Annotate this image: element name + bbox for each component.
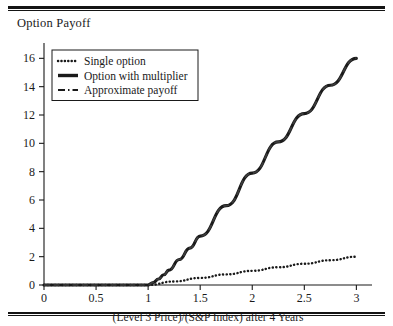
y-tick-label: 2: [29, 250, 35, 264]
x-tick-label: 3: [353, 291, 359, 305]
x-tick-label: 0: [41, 291, 47, 305]
y-tick-label: 10: [23, 136, 35, 150]
x-tick-label: 0.5: [89, 291, 104, 305]
y-tick-label: 8: [29, 165, 35, 179]
legend-label: Option with multiplier: [84, 70, 188, 83]
legend-label: Approximate payoff: [84, 84, 178, 97]
y-tick-label: 4: [29, 221, 35, 235]
y-tick-label: 6: [29, 193, 35, 207]
option-payoff-chart: 00.511.522.53 0246810121416 (Level 3 Pri…: [0, 0, 393, 326]
y-tick-label: 14: [23, 80, 35, 94]
y-tick-labels: 0246810121416: [23, 51, 35, 292]
x-tick-label: 1.5: [193, 291, 208, 305]
chart-legend: Single optionOption with multiplierAppro…: [52, 50, 198, 101]
series-single-option: [44, 257, 356, 285]
legend-label: Single option: [84, 55, 146, 68]
x-tick-label: 1: [145, 291, 151, 305]
x-tick-label: 2.5: [297, 291, 312, 305]
y-tick-label: 12: [23, 108, 35, 122]
y-tick-label: 16: [23, 51, 35, 65]
x-tick-label: 2: [249, 291, 255, 305]
x-tick-labels: 00.511.522.53: [41, 291, 359, 305]
y-tick-label: 0: [29, 278, 35, 292]
x-axis-title: (Level 3 Price)/(S&P Index) after 4 Year…: [113, 311, 304, 324]
